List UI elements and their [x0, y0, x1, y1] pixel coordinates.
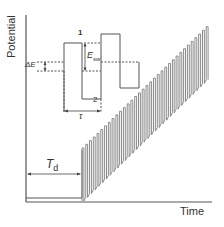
- amplitude-subscript: sw: [93, 56, 100, 62]
- delay-time-label: Td: [46, 158, 58, 173]
- period-arrow: [64, 110, 101, 113]
- waveform-canvas: [0, 0, 224, 227]
- amplitude-label: Esw: [87, 51, 100, 62]
- pulse-1-marker: 1: [78, 29, 82, 37]
- y-axis-label: Potential: [6, 15, 17, 58]
- x-axis-label: Time: [180, 206, 204, 217]
- swv-waveform-diagram: Potential Time Td ΔE Esw τ 1 2: [0, 0, 224, 227]
- delta-e-marker: [44, 62, 47, 71]
- step-height-label: ΔE: [25, 61, 36, 69]
- pulse-2-marker: 2: [93, 96, 97, 104]
- delay-time-subscript: d: [53, 163, 58, 173]
- inset-waveform-detail: [37, 34, 139, 112]
- period-label: τ: [79, 112, 82, 121]
